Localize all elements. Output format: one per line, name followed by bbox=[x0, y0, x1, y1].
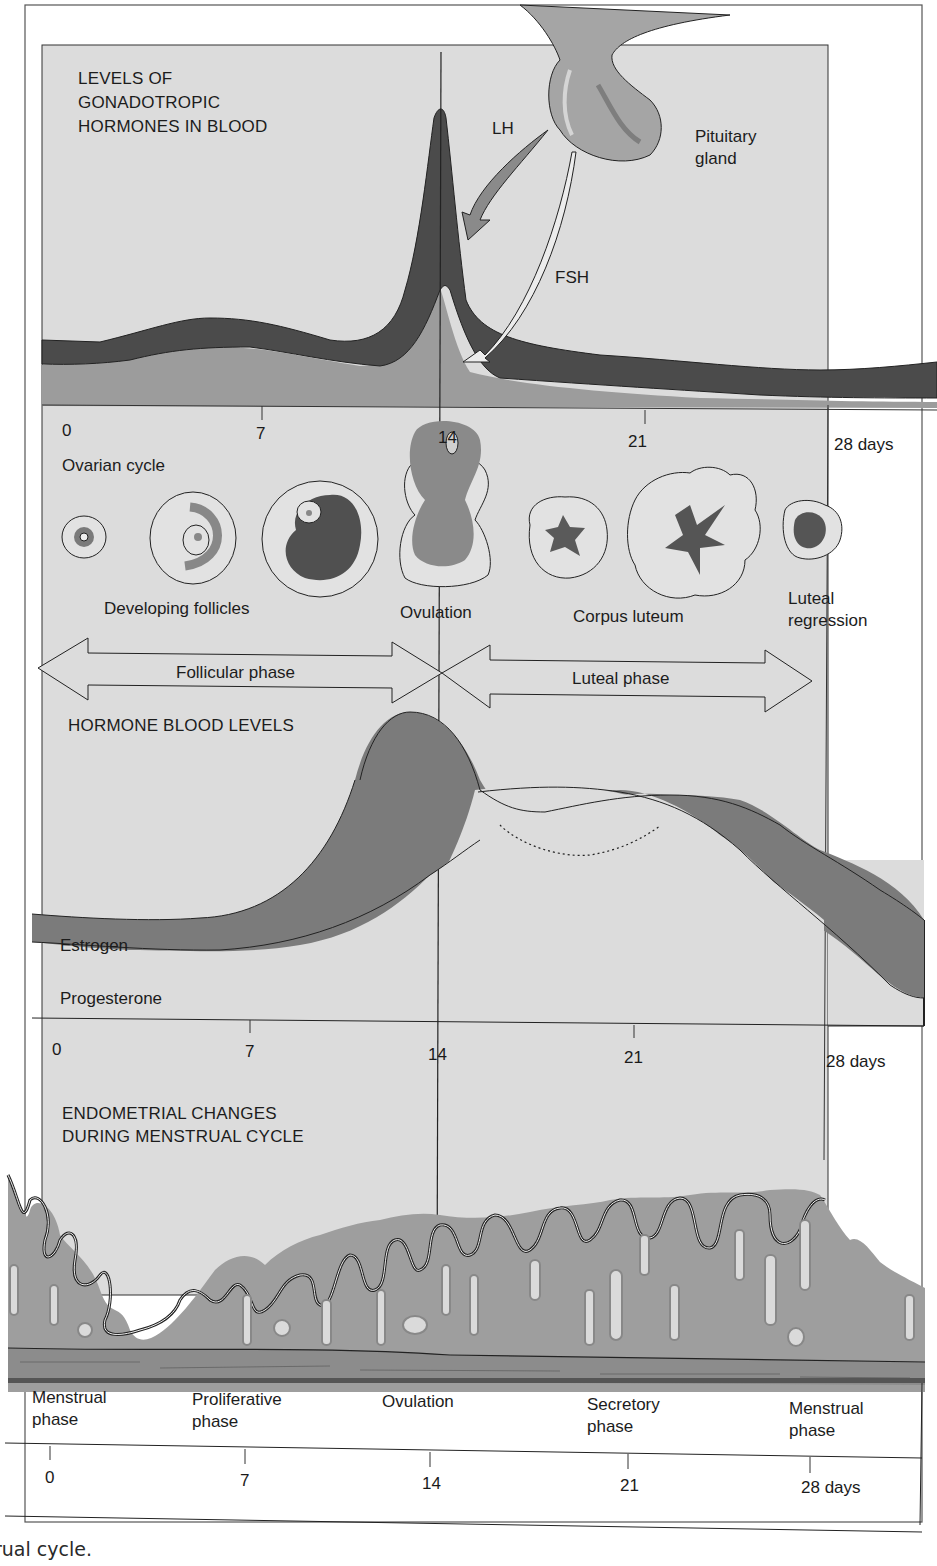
phase-secretory-line2: phase bbox=[587, 1416, 633, 1437]
ovarian-axis-tick-28: 28 days bbox=[834, 435, 894, 455]
fsh-label: FSH bbox=[555, 267, 589, 288]
mature-follicle-icon bbox=[262, 481, 378, 597]
hormone-axis-tick-7: 7 bbox=[245, 1042, 254, 1062]
gonadotropic-title-line2: GONADOTROPIC bbox=[78, 92, 220, 113]
follicular-phase-label: Follicular phase bbox=[176, 662, 295, 683]
pituitary-label-line2: gland bbox=[695, 148, 737, 169]
phase-menstrual-end-line2: phase bbox=[789, 1420, 835, 1441]
phase-menstrual-start-line2: phase bbox=[32, 1409, 78, 1430]
menstrual-cycle-diagram bbox=[0, 0, 937, 1566]
luteal-regression-icon bbox=[783, 500, 842, 559]
endometrial-axis-tick-0: 0 bbox=[45, 1468, 54, 1488]
phase-ovulation-line1: Ovulation bbox=[382, 1391, 454, 1412]
hormone-blood-levels-title: HORMONE BLOOD LEVELS bbox=[68, 715, 294, 736]
ovarian-axis-tick-7: 7 bbox=[256, 424, 265, 444]
endometrial-title-line2: DURING MENSTRUAL CYCLE bbox=[62, 1126, 304, 1147]
hormone-axis-tick-28: 28 days bbox=[826, 1052, 886, 1072]
endometrial-axis-tick-14: 14 bbox=[422, 1474, 441, 1494]
luteal-phase-label: Luteal phase bbox=[572, 668, 669, 689]
hormone-axis-tick-0: 0 bbox=[52, 1040, 61, 1060]
ovarian-axis-tick-14: 14 bbox=[438, 428, 457, 448]
endometrial-axis-tick-28: 28 days bbox=[801, 1478, 861, 1498]
pituitary-label-line1: Pituitary bbox=[695, 126, 756, 147]
phase-menstrual-start-line1: Menstrual bbox=[32, 1387, 107, 1408]
developing-follicles-label: Developing follicles bbox=[104, 598, 250, 619]
ovarian-axis-tick-0: 0 bbox=[62, 421, 71, 441]
primordial-follicle-icon bbox=[62, 516, 106, 558]
estrogen-label: Estrogen bbox=[60, 935, 128, 956]
luteal-regression-label-line2: regression bbox=[788, 610, 867, 631]
phase-proliferative-line2: phase bbox=[192, 1411, 238, 1432]
figure-caption-fragment: rual cycle. bbox=[0, 1538, 92, 1560]
endometrial-axis-tick-7: 7 bbox=[240, 1471, 249, 1491]
ovarian-cycle-label: Ovarian cycle bbox=[62, 455, 165, 476]
hormone-axis-tick-14: 14 bbox=[428, 1045, 447, 1065]
ovulation-label: Ovulation bbox=[400, 602, 472, 623]
corpus-luteum-large-icon bbox=[628, 467, 761, 598]
progesterone-label: Progesterone bbox=[60, 988, 162, 1009]
phase-proliferative-line1: Proliferative bbox=[192, 1389, 282, 1410]
phase-secretory-line1: Secretory bbox=[587, 1394, 660, 1415]
lh-label: LH bbox=[492, 118, 514, 139]
gonadotropic-title-line3: HORMONES IN BLOOD bbox=[78, 116, 267, 137]
ovarian-axis-tick-21: 21 bbox=[628, 432, 647, 452]
phase-menstrual-end-line1: Menstrual bbox=[789, 1398, 864, 1419]
endometrial-title-line1: ENDOMETRIAL CHANGES bbox=[62, 1103, 277, 1124]
luteal-regression-label-line1: Luteal bbox=[788, 588, 834, 609]
corpus-luteum-small-icon bbox=[529, 497, 607, 578]
hormone-axis-tick-21: 21 bbox=[624, 1048, 643, 1068]
endometrial-axis-tick-21: 21 bbox=[620, 1476, 639, 1496]
corpus-luteum-label: Corpus luteum bbox=[573, 606, 684, 627]
gonadotropic-title-line1: LEVELS OF bbox=[78, 68, 172, 89]
secondary-follicle-icon bbox=[150, 492, 236, 584]
